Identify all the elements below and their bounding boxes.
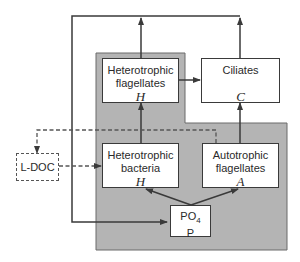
node-label: Autotrophic	[203, 149, 278, 162]
node-autotrophic-flagellates: Autotrophic flagellates A	[202, 143, 279, 188]
node-symbol: P	[171, 227, 210, 240]
node-ciliates: Ciliates C	[201, 58, 280, 103]
node-symbol: C	[202, 90, 279, 103]
node-symbol: A	[203, 175, 278, 188]
node-heterotrophic-flagellates: Heterotrophic flagellates H	[102, 58, 179, 103]
node-symbol: H	[103, 90, 178, 103]
node-label: Heterotrophic	[103, 149, 178, 162]
node-label: Heterotrophic	[103, 64, 178, 77]
food-web-diagram: Heterotrophic flagellates H Ciliates C H…	[0, 0, 300, 262]
node-label: PO4	[171, 210, 210, 227]
node-label: L-DOC	[17, 161, 58, 174]
node-heterotrophic-bacteria: Heterotrophic bacteria H	[102, 143, 179, 188]
node-symbol: H	[103, 175, 178, 188]
node-label: Ciliates	[202, 64, 279, 77]
diagram-lines	[0, 0, 300, 262]
node-po4: PO4 P	[170, 205, 211, 237]
node-l-doc: L-DOC	[16, 153, 59, 181]
